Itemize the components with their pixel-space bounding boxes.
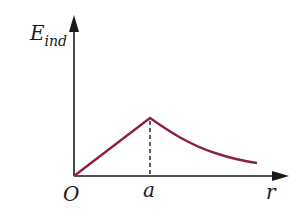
y-axis-label: Eind — [29, 21, 67, 49]
marker-a-label: a — [143, 178, 155, 202]
x-axis-label: r — [266, 180, 277, 204]
y-axis-arrow-icon — [69, 15, 79, 32]
field-curve — [74, 118, 257, 176]
field-diagram: Eind O a r — [0, 0, 303, 215]
origin-label: O — [63, 182, 79, 206]
